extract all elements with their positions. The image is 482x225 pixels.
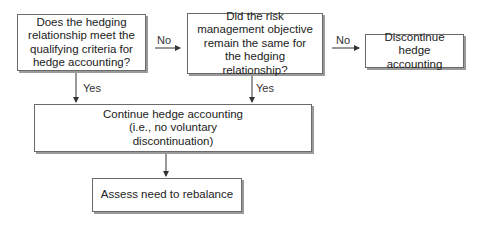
node-continue-text: Continue hedge accounting (i.e., no volu… (35, 108, 311, 149)
node-continue-hedge-accounting: Continue hedge accounting (i.e., no volu… (34, 104, 312, 152)
edge-label-q1-no: No (157, 34, 171, 46)
node-q1-text: Does the hedging relationship meet the q… (18, 16, 145, 70)
edge-label-q2-no: No (336, 34, 350, 46)
node-discontinue-text: Discontinue hedge accounting (366, 31, 463, 72)
node-q2-text: Did the risk management objective remain… (188, 10, 322, 78)
node-rebalance-text: Assess need to rebalance (101, 188, 233, 202)
node-q1-qualifying-criteria: Does the hedging relationship meet the q… (17, 14, 146, 71)
node-q2-risk-objective: Did the risk management objective remain… (187, 13, 323, 74)
edge-label-q2-yes: Yes (256, 82, 274, 94)
edge-label-q1-yes: Yes (83, 82, 101, 94)
node-discontinue: Discontinue hedge accounting (365, 34, 464, 68)
node-assess-rebalance: Assess need to rebalance (92, 178, 242, 212)
